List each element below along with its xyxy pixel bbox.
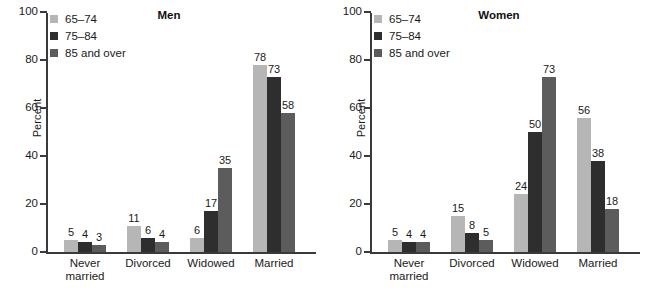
bar-value-label: 56 <box>571 105 597 116</box>
charts-row: MenPercent100806040200543116461735787358… <box>0 0 648 296</box>
legend-label: 85 and over <box>65 47 126 59</box>
y-axis-tick <box>364 11 371 13</box>
bar <box>542 77 556 252</box>
bar <box>514 194 528 252</box>
chart-panel-men: MenPercent100806040200543116461735787358… <box>0 0 324 296</box>
bar-value-label: 15 <box>445 203 471 214</box>
x-axis-tick-label: Divorced <box>113 257 183 270</box>
bar-value-label: 11 <box>121 213 147 224</box>
bar <box>204 211 218 252</box>
bar <box>190 238 204 252</box>
bar-value-label: 35 <box>212 155 238 166</box>
legend: 65–7475–8485 and over <box>50 11 126 62</box>
y-axis-tick-label: 0 <box>332 246 362 258</box>
bar-value-label: 4 <box>149 229 175 240</box>
bar <box>416 242 430 252</box>
bar <box>402 242 416 252</box>
x-axis-tick-label-line1: Widowed <box>500 257 570 270</box>
y-axis-tick-label: 80 <box>332 54 362 66</box>
x-axis-line <box>370 252 640 254</box>
legend-item: 65–74 <box>50 11 126 26</box>
legend-item: 85 and over <box>50 45 126 60</box>
y-axis-tick-label: 0 <box>8 246 38 258</box>
legend-label: 65–74 <box>65 13 97 25</box>
bar <box>92 245 106 252</box>
y-axis-tick <box>364 107 371 109</box>
x-axis-tick-label-line1: Never <box>374 257 444 270</box>
legend-item: 75–84 <box>374 28 450 43</box>
y-axis-tick-label: 60 <box>8 102 38 114</box>
bar-value-label: 58 <box>275 100 301 111</box>
chart-panel-women: WomenPercent1008060402005441585245073563… <box>324 0 648 296</box>
legend-item: 85 and over <box>374 45 450 60</box>
x-axis-tick-label-line1: Divorced <box>113 257 183 270</box>
bar <box>253 65 267 252</box>
y-axis-tick <box>40 203 47 205</box>
bar-value-label: 38 <box>585 148 611 159</box>
legend-label: 85 and over <box>389 47 450 59</box>
y-axis-tick <box>40 11 47 13</box>
bar-value-label: 18 <box>599 196 625 207</box>
y-axis-tick <box>364 203 371 205</box>
legend-swatch-icon <box>374 32 382 40</box>
x-axis-tick-label-line1: Never <box>50 257 120 270</box>
bar <box>64 240 78 252</box>
bar-value-label: 73 <box>536 64 562 75</box>
bar-group: 245073 <box>514 12 556 252</box>
bar <box>479 240 493 252</box>
x-axis-tick-label-line1: Married <box>563 257 633 270</box>
y-axis-tick-label: 40 <box>332 150 362 162</box>
x-axis-tick-label-line2: married <box>50 270 120 283</box>
x-axis-tick-label: Widowed <box>500 257 570 270</box>
bar-value-label: 73 <box>261 64 287 75</box>
y-axis-title: Percent <box>355 83 367 153</box>
bar <box>528 132 542 252</box>
bar-group: 61735 <box>190 12 232 252</box>
y-axis-tick-label: 100 <box>332 6 362 18</box>
bar <box>78 242 92 252</box>
bar-group: 1164 <box>127 12 169 252</box>
legend-swatch-icon <box>50 15 58 23</box>
bar-value-label: 3 <box>86 232 112 243</box>
x-axis-tick-label-line1: Married <box>239 257 309 270</box>
x-axis-tick-label: Nevermarried <box>374 257 444 282</box>
y-axis-tick <box>40 59 47 61</box>
legend-swatch-icon <box>374 49 382 57</box>
bar <box>577 118 591 252</box>
x-axis-line <box>46 252 316 254</box>
y-axis-tick-label: 60 <box>332 102 362 114</box>
y-axis-title: Percent <box>31 83 43 153</box>
x-axis-tick-label: Married <box>563 257 633 270</box>
bar-group: 563818 <box>577 12 619 252</box>
y-axis-tick-label: 100 <box>8 6 38 18</box>
legend-label: 75–84 <box>389 30 421 42</box>
x-axis-tick-label-line2: married <box>374 270 444 283</box>
x-axis-tick-label-line1: Widowed <box>176 257 246 270</box>
y-axis-tick <box>40 107 47 109</box>
bar <box>155 242 169 252</box>
x-axis-tick-label: Divorced <box>437 257 507 270</box>
y-axis-tick <box>364 59 371 61</box>
legend-label: 65–74 <box>389 13 421 25</box>
y-axis-tick-label: 80 <box>8 54 38 66</box>
bar-value-label: 5 <box>473 227 499 238</box>
bar <box>218 168 232 252</box>
x-axis-tick-label: Widowed <box>176 257 246 270</box>
legend-swatch-icon <box>374 15 382 23</box>
y-axis-tick-label: 20 <box>8 198 38 210</box>
legend-item: 65–74 <box>374 11 450 26</box>
bar <box>388 240 402 252</box>
legend: 65–7475–8485 and over <box>374 11 450 62</box>
bar-group: 787358 <box>253 12 295 252</box>
y-axis-tick-label: 40 <box>8 150 38 162</box>
y-axis-tick <box>364 155 371 157</box>
legend-swatch-icon <box>50 32 58 40</box>
x-axis-tick-label: Married <box>239 257 309 270</box>
bar <box>281 113 295 252</box>
bar-group: 1585 <box>451 12 493 252</box>
y-axis-tick-label: 20 <box>332 198 362 210</box>
x-axis-tick-label-line1: Divorced <box>437 257 507 270</box>
y-axis-tick <box>40 155 47 157</box>
x-axis-tick-label: Nevermarried <box>50 257 120 282</box>
bar-value-label: 4 <box>410 229 436 240</box>
